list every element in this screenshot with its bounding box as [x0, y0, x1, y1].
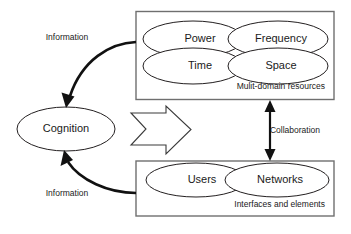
information-arrow-bottom-head — [61, 150, 74, 166]
label-information-bottom: Information — [46, 188, 89, 198]
top-group-container: Power Frequency Time Space Mulit-domain … — [136, 12, 334, 100]
collaboration-arrow-head-down — [265, 149, 276, 161]
collaboration-arrow-head-up — [265, 100, 276, 112]
label-space: Space — [265, 59, 296, 71]
label-cognition: Cognition — [43, 122, 89, 134]
label-time: Time — [188, 59, 212, 71]
collaboration-arrow: Collaboration — [265, 100, 321, 161]
bottom-group-container: Users Networks Interfaces and elements — [136, 161, 334, 216]
block-arrow-right-shape — [131, 106, 191, 154]
information-arrow-bottom: Information — [46, 150, 136, 198]
label-power: Power — [184, 32, 216, 44]
information-arrow-top-curve — [70, 42, 136, 96]
block-arrow-right — [131, 106, 191, 154]
label-users: Users — [188, 173, 217, 185]
diagram-canvas: Power Frequency Time Space Mulit-domain … — [0, 0, 351, 234]
information-arrow-top-head — [62, 93, 75, 109]
caption-multi-domain-resources: Mulit-domain resources — [237, 81, 325, 91]
cognition-container: Cognition — [17, 107, 115, 151]
label-information-top: Information — [46, 32, 89, 42]
diagram-svg: Power Frequency Time Space Mulit-domain … — [0, 0, 351, 234]
label-frequency: Frequency — [255, 32, 307, 44]
information-arrow-top: Information — [46, 32, 136, 108]
label-networks: Networks — [257, 173, 303, 185]
caption-interfaces-and-elements: Interfaces and elements — [234, 199, 325, 209]
label-collaboration: Collaboration — [270, 125, 320, 135]
